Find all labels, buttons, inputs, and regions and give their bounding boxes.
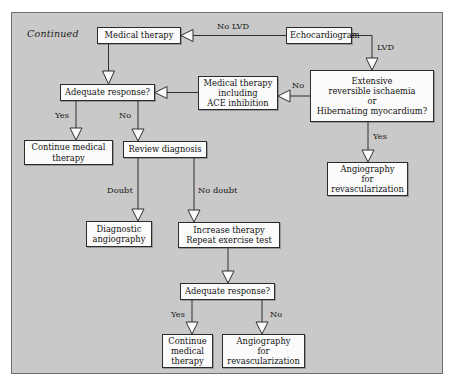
node-echocardiogram[interactable]: Echocardiogram xyxy=(286,27,352,44)
node-angiography-revascularization-1-label: Angiography for revascularization xyxy=(331,164,404,194)
edge-label-yes-response-1: Yes xyxy=(55,110,69,120)
edge-label-no-doubt: No doubt xyxy=(198,185,237,195)
node-adequate-response-2-label: Adequate response? xyxy=(184,286,271,296)
node-adequate-response-2[interactable]: Adequate response? xyxy=(180,283,275,300)
node-review-diagnosis-label: Review diagnosis xyxy=(127,144,203,154)
node-increase-therapy-repeat-exercise-test[interactable]: Increase therapy Repeat exercise test xyxy=(178,222,280,248)
edge-label-no-lvd: No LVD xyxy=(217,21,249,31)
edge-label-yes-ischaemia: Yes xyxy=(373,131,387,141)
node-diagnostic-angiography[interactable]: Diagnostic angiography xyxy=(86,221,152,247)
node-angiography-revascularization-2[interactable]: Angiography for revascularization xyxy=(222,334,305,368)
node-continue-medical-therapy-2-label: Continue medical therapy xyxy=(166,336,209,366)
node-medical-therapy-label: Medical therapy xyxy=(101,30,177,40)
node-diagnostic-angiography-label: Diagnostic angiography xyxy=(90,224,148,244)
node-extensive-reversible-ischaemia-label: Extensive reversible ischaemia or Hibern… xyxy=(314,76,430,116)
edge-label-no-response-2: No xyxy=(270,309,282,319)
node-adequate-response-1[interactable]: Adequate response? xyxy=(60,84,155,101)
node-angiography-revascularization-2-label: Angiography for revascularization xyxy=(226,336,301,366)
node-echocardiogram-label: Echocardiogram xyxy=(290,30,348,40)
edge-label-doubt: Doubt xyxy=(107,185,133,195)
edge-label-lvd: LVD xyxy=(377,42,394,52)
edge-label-yes-response-2: Yes xyxy=(171,309,185,319)
node-extensive-reversible-ischaemia[interactable]: Extensive reversible ischaemia or Hibern… xyxy=(310,70,434,122)
node-medical-therapy-ace-label: Medical therapy including ACE inhibition xyxy=(202,78,274,108)
figure-canvas: Continued Medical therapy Echocardiogram… xyxy=(0,0,455,392)
edge-label-no-response-1: No xyxy=(119,110,131,120)
node-adequate-response-1-label: Adequate response? xyxy=(64,87,151,97)
edge-label-no-ischaemia: No xyxy=(292,80,304,90)
node-continue-medical-therapy-1[interactable]: Continue medical therapy xyxy=(24,140,113,165)
node-angiography-revascularization-1[interactable]: Angiography for revascularization xyxy=(327,162,408,196)
node-medical-therapy-ace[interactable]: Medical therapy including ACE inhibition xyxy=(198,76,278,110)
continued-label: Continued xyxy=(27,28,79,39)
node-review-diagnosis[interactable]: Review diagnosis xyxy=(123,141,207,158)
node-continue-medical-therapy-2[interactable]: Continue medical therapy xyxy=(162,334,213,368)
node-continue-medical-therapy-1-label: Continue medical therapy xyxy=(28,142,109,162)
node-increase-therapy-repeat-exercise-test-label: Increase therapy Repeat exercise test xyxy=(182,225,276,245)
node-medical-therapy[interactable]: Medical therapy xyxy=(97,27,181,44)
